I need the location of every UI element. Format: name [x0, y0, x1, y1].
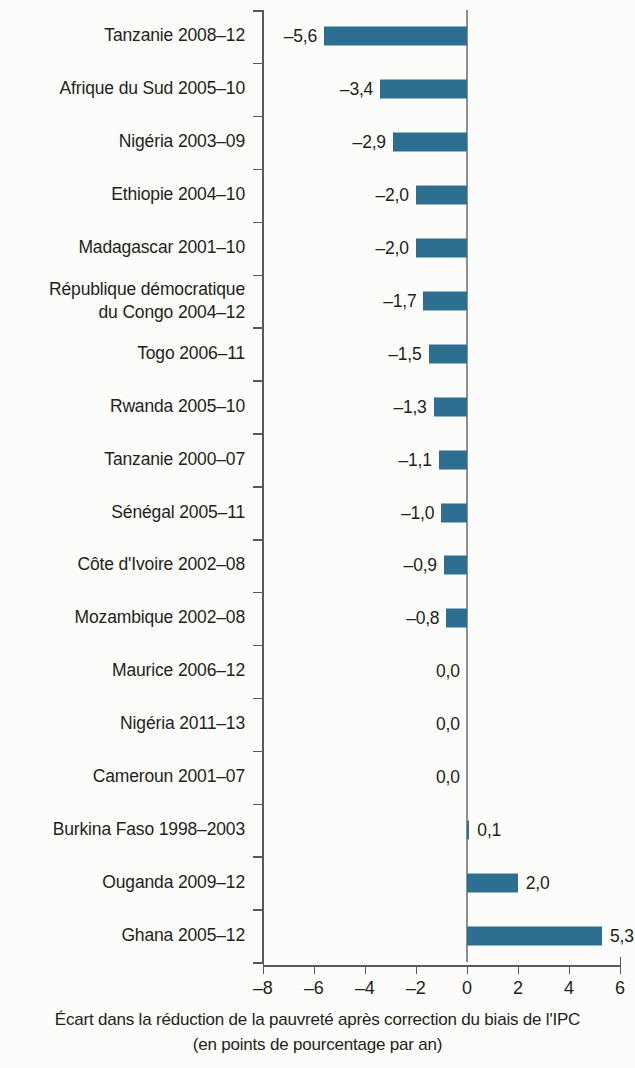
plot-area: Tanzanie 2008–12–5,6Afrique du Sud 2005–… — [0, 0, 635, 965]
y-axis-tick — [253, 592, 263, 594]
y-axis-tick — [253, 222, 263, 224]
x-axis-tick — [416, 965, 418, 974]
y-axis-tick — [253, 10, 263, 12]
category-label: Mozambique 2002–08 — [75, 607, 245, 630]
bar-value-label: –1,3 — [393, 396, 426, 417]
bar-value-label: 0,1 — [477, 819, 501, 840]
category-label: République démocratique du Congo 2004–12 — [49, 278, 245, 324]
bar-value-label: –5,6 — [284, 26, 317, 47]
x-axis-tick-label: –8 — [253, 978, 273, 999]
y-axis-tick — [253, 433, 263, 435]
x-axis-tick-label: –4 — [355, 978, 375, 999]
bar-value-label: –1,7 — [383, 290, 416, 311]
x-axis-tick — [518, 965, 520, 974]
y-axis-tick — [253, 63, 263, 65]
bar-chart-figure: Tanzanie 2008–12–5,6Afrique du Sud 2005–… — [0, 0, 635, 1068]
y-axis-tick — [253, 804, 263, 806]
bar — [429, 344, 467, 363]
chart-caption: Écart dans la réduction de la pauvreté a… — [0, 1008, 635, 1057]
bar-row: Maurice 2006–120,0 — [0, 645, 635, 698]
y-axis-tick — [253, 856, 263, 858]
caption-line-2: (en points de pourcentage par an) — [0, 1033, 635, 1058]
x-axis-tick-label: 6 — [615, 978, 625, 999]
category-label: Maurice 2006–12 — [112, 660, 245, 683]
y-axis-tick — [253, 698, 263, 700]
bar-row: Nigéria 2003–09–2,9 — [0, 116, 635, 169]
bar-value-label: –2,0 — [376, 238, 409, 259]
category-label: Rwanda 2005–10 — [110, 395, 245, 418]
x-axis-tick — [569, 965, 571, 974]
bar — [467, 873, 518, 892]
x-axis-line — [263, 965, 620, 967]
x-axis-tick — [365, 965, 367, 974]
bar-row: Burkina Faso 1998–20030,1 — [0, 804, 635, 857]
bar-row: Ethiopie 2004–10–2,0 — [0, 169, 635, 222]
bar-value-label: 5,3 — [610, 925, 634, 946]
y-axis-tick — [253, 486, 263, 488]
bar-row: Ouganda 2009–122,0 — [0, 856, 635, 909]
y-axis-tick — [253, 169, 263, 171]
bar — [467, 926, 602, 945]
x-axis-tick — [467, 965, 469, 974]
y-axis-tick — [253, 380, 263, 382]
bar-row: Cameroun 2001–070,0 — [0, 751, 635, 804]
category-label: Nigéria 2011–13 — [120, 713, 245, 736]
x-axis-tick-label: 4 — [564, 978, 574, 999]
caption-line-1: Écart dans la réduction de la pauvreté a… — [55, 1010, 580, 1029]
bar-row: Ghana 2005–125,3 — [0, 909, 635, 962]
bar — [444, 556, 467, 575]
category-label: Togo 2006–11 — [137, 342, 245, 365]
bar — [380, 80, 467, 99]
y-axis-tick — [253, 751, 263, 753]
bar-value-label: –1,1 — [398, 449, 431, 470]
category-label: Cameroun 2001–07 — [93, 765, 245, 788]
bar-row: Tanzanie 2008–12–5,6 — [0, 10, 635, 63]
bar-row: Tanzanie 2000–07–1,1 — [0, 433, 635, 486]
x-axis-tick-label: –6 — [304, 978, 324, 999]
bar-value-label: 0,0 — [436, 661, 460, 682]
bar-value-label: 2,0 — [526, 872, 550, 893]
bar — [416, 239, 467, 258]
x-axis-tick-label: 0 — [462, 978, 472, 999]
bar-row: Rwanda 2005–10–1,3 — [0, 380, 635, 433]
x-axis-tick-label: 2 — [513, 978, 523, 999]
category-label: Ouganda 2009–12 — [102, 871, 245, 894]
category-label: Ethiopie 2004–10 — [111, 184, 245, 207]
x-axis-tick — [314, 965, 316, 974]
bar-value-label: 0,0 — [436, 714, 460, 735]
bar — [434, 397, 467, 416]
bar-row: Madagascar 2001–10–2,0 — [0, 222, 635, 275]
x-axis-tick — [263, 957, 265, 974]
y-axis-tick — [253, 539, 263, 541]
y-axis-tick — [253, 116, 263, 118]
x-axis-tick-label: –2 — [406, 978, 426, 999]
category-label: Tanzanie 2008–12 — [104, 25, 245, 48]
category-label: Côte d'Ivoire 2002–08 — [77, 554, 245, 577]
bar — [324, 27, 467, 46]
bar-value-label: –0,8 — [406, 608, 439, 629]
category-label: Burkina Faso 1998–2003 — [53, 818, 245, 841]
category-label: Ghana 2005–12 — [121, 924, 245, 947]
category-label: Madagascar 2001–10 — [78, 236, 245, 259]
bar-row: Togo 2006–11–1,5 — [0, 327, 635, 380]
bar-value-label: –2,9 — [353, 132, 386, 153]
bar — [467, 820, 470, 839]
bar — [393, 133, 467, 152]
category-label: Tanzanie 2000–07 — [104, 448, 245, 471]
bar-value-label: 0,0 — [436, 767, 460, 788]
y-axis-tick — [253, 909, 263, 911]
bar — [441, 503, 467, 522]
y-axis-tick — [253, 327, 263, 329]
bar-value-label: –3,4 — [340, 79, 373, 100]
x-axis-tick — [620, 957, 622, 974]
bar — [416, 186, 467, 205]
category-label: Nigéria 2003–09 — [119, 131, 245, 154]
category-label: Afrique du Sud 2005–10 — [60, 78, 245, 101]
y-axis-tick — [253, 645, 263, 647]
bar — [439, 450, 467, 469]
bar — [446, 609, 466, 628]
bar-row: Sénégal 2005–11–1,0 — [0, 486, 635, 539]
bar — [423, 291, 466, 310]
bar-value-label: –0,9 — [404, 555, 437, 576]
bar-row: Nigéria 2011–130,0 — [0, 698, 635, 751]
